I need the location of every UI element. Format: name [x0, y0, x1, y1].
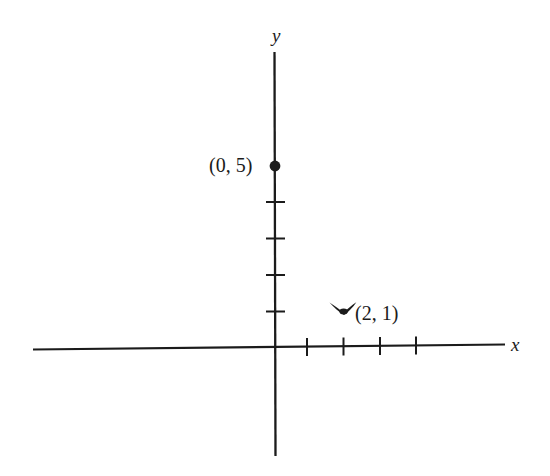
- data-point-2-1: [330, 302, 357, 315]
- point-label-2-1: (2, 1): [355, 303, 398, 323]
- coordinate-plane-figure: y x (0, 5) (2, 1): [0, 0, 550, 476]
- point-label-0-5: (0, 5): [209, 155, 252, 175]
- y-axis-label: y: [272, 26, 280, 45]
- x-axis-line: [33, 345, 505, 350]
- data-point-0-5: [270, 161, 281, 172]
- x-axis-label: x: [511, 335, 519, 354]
- y-axis-line: [275, 52, 276, 456]
- coordinate-axes-svg: [0, 0, 550, 476]
